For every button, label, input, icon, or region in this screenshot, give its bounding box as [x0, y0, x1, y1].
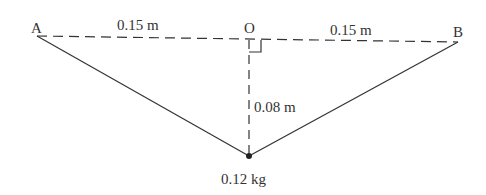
- string-a-to-mass: [37, 36, 249, 156]
- point-a-label: A: [31, 20, 42, 36]
- right-angle-marker: [249, 40, 261, 52]
- vertical-distance-label: 0.08 m: [254, 99, 296, 115]
- horizontal-dashed-line: [37, 36, 458, 42]
- mass-point: [246, 153, 252, 159]
- pendulum-string-diagram: A O B 0.15 m 0.15 m 0.08 m 0.12 kg: [0, 0, 486, 195]
- point-b-label: B: [453, 24, 463, 40]
- point-o-label: O: [244, 20, 255, 36]
- ob-distance-label: 0.15 m: [330, 22, 372, 38]
- mass-label: 0.12 kg: [221, 171, 267, 187]
- ao-distance-label: 0.15 m: [117, 17, 159, 33]
